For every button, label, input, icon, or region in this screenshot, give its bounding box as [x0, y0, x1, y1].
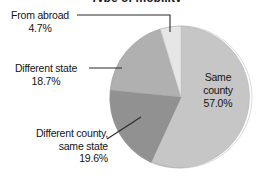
pie-label-from-abroad-percent: 4.7% [3, 22, 77, 35]
pie-label-different-county-line2: same state [6, 140, 108, 153]
pie-label-different-county-line1: Different county, [6, 127, 108, 140]
pie-label-from-abroad: From abroad 4.7% [3, 9, 77, 34]
pie-label-from-abroad-text: From abroad [3, 9, 77, 22]
pie-label-same-county-percent: 57.0% [190, 97, 246, 110]
pie-chart-figure: Type of mobility From abroad 4.7% Differ… [0, 0, 272, 180]
leader-line-from-abroad [77, 15, 170, 32]
pie-label-different-county-percent: 19.6% [6, 152, 108, 165]
pie-label-different-county-same-state: Different county, same state 19.6% [6, 127, 108, 165]
pie-label-same-county-line2: county [190, 84, 246, 97]
pie-label-different-state-text: Different state [4, 62, 88, 75]
pie-label-same-county-line1: Same [190, 71, 246, 84]
pie-label-different-state: Different state 18.7% [4, 62, 88, 87]
pie-label-same-county: Same county 57.0% [190, 71, 246, 110]
pie-label-different-state-percent: 18.7% [4, 75, 88, 88]
